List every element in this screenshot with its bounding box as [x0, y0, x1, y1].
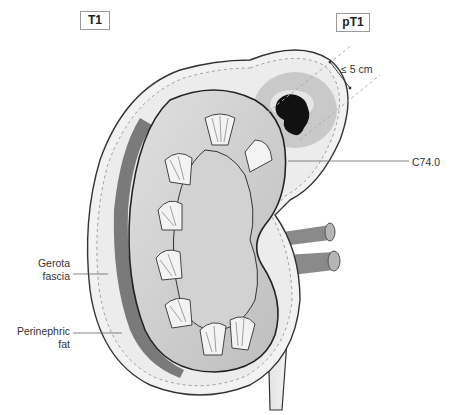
- clinical-stage-label: T1: [80, 11, 110, 30]
- perinephric-fat-label: Perinephric fat: [6, 325, 70, 351]
- fat-line-1: Perinephric: [6, 325, 70, 338]
- tumor-size-label: ≤ 5 cm: [341, 63, 372, 76]
- gerota-line-2: fascia: [20, 270, 70, 283]
- fat-line-2: fat: [6, 338, 70, 351]
- kidney-diagram: [0, 0, 456, 415]
- gerota-fascia-label: Gerota fascia: [20, 257, 70, 283]
- icd-code-label: C74.0: [412, 156, 440, 169]
- gerota-line-1: Gerota: [20, 257, 70, 270]
- pathological-stage-label: pT1: [336, 13, 370, 32]
